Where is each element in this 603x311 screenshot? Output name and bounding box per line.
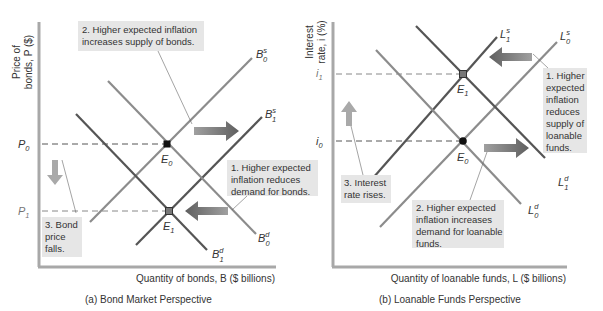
demand-curve-b0d bbox=[108, 81, 256, 234]
demand-curve-l1d bbox=[416, 26, 545, 158]
equilibrium-e1-marker bbox=[166, 208, 173, 215]
label-b1s: Bs1 bbox=[265, 106, 276, 124]
price-falls-arrow bbox=[47, 160, 63, 185]
interest-rises-arrow bbox=[341, 101, 357, 126]
annotation-step2: 2. Higher expected inflation increases s… bbox=[82, 24, 200, 47]
panel-b-caption: (b) Loanable Funds Perspective bbox=[379, 294, 521, 305]
annotation-step3: 3. Interest rate rises. bbox=[344, 177, 389, 200]
equilibrium-e1-marker bbox=[460, 71, 467, 78]
label-e0: E0 bbox=[161, 153, 173, 168]
x-axis-title: Quantity of loanable funds, L ($ billion… bbox=[391, 273, 566, 284]
y-axis-title-line2: rate, i (%) bbox=[316, 20, 327, 63]
annotation-step3-leader bbox=[62, 160, 76, 213]
supply-curve-l1s bbox=[373, 37, 497, 178]
tick-p1: P1 bbox=[18, 205, 30, 220]
tick-i1: i1 bbox=[316, 67, 323, 82]
demand-shift-right-arrow bbox=[484, 138, 529, 158]
annotation-step3-leader bbox=[351, 126, 363, 175]
label-b0d: Bd0 bbox=[258, 230, 271, 248]
annotation-step1-leader bbox=[232, 196, 247, 210]
label-e1: E1 bbox=[163, 220, 175, 235]
label-l0d: Ld0 bbox=[528, 202, 539, 220]
panel-a-caption: (a) Bond Market Perspective bbox=[85, 294, 212, 305]
equilibrium-e0-marker bbox=[459, 137, 467, 145]
demand-curve-l0d bbox=[376, 50, 521, 204]
supply-shift-right-arrow bbox=[194, 121, 239, 141]
y-axis-title-line2: bonds, P ($) bbox=[23, 35, 34, 89]
demand-curve-b1d bbox=[76, 114, 207, 250]
panel-b-loanable-funds: Interest rate, i (%) i1 i0 Ls1 Ls0 Ld1 L… bbox=[304, 20, 587, 305]
y-axis-title-line1: Interest bbox=[304, 25, 315, 59]
inflation-effect-diagram: Price of bonds, P ($) P0 P1 Bs0 Bs1 Bd0 … bbox=[0, 0, 603, 311]
label-b1d: Bd1 bbox=[212, 246, 224, 264]
label-l1d: Ld1 bbox=[558, 174, 569, 192]
panel-a-bond-market: Price of bonds, P ($) P0 P1 Bs0 Bs1 Bd0 … bbox=[11, 21, 318, 305]
tick-i0: i0 bbox=[316, 135, 323, 150]
annotation-step1: 1. Higher expected inflation reduces sup… bbox=[546, 70, 587, 153]
y-axis-title-line1: Price of bbox=[11, 45, 22, 79]
annotation-step2-leader bbox=[158, 51, 192, 124]
label-e1: E1 bbox=[457, 83, 469, 98]
equilibrium-e0-marker bbox=[164, 141, 171, 148]
label-l0s: Ls0 bbox=[560, 28, 571, 46]
label-b0s: Bs0 bbox=[256, 46, 268, 64]
annotation-step1: 1. Higher expected inflation reduces dem… bbox=[231, 162, 313, 197]
label-e0: E0 bbox=[457, 151, 469, 166]
supply-curve-b0s bbox=[90, 58, 252, 222]
x-axis-title: Quantity of bonds, B ($ billions) bbox=[136, 273, 275, 284]
tick-p0: P0 bbox=[18, 138, 30, 153]
label-l1s: Ls1 bbox=[500, 26, 510, 44]
demand-shift-left-arrow bbox=[185, 201, 228, 221]
supply-shift-left-arrow bbox=[489, 47, 532, 67]
